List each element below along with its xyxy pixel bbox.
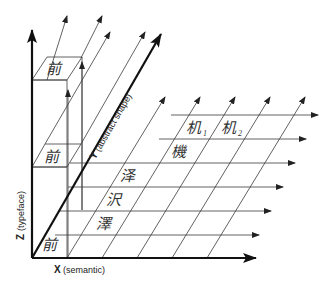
x-axis-letter: X [54,264,61,275]
z-axis-letter: Z [15,234,26,240]
glyph-origin: 前 [42,236,59,254]
glyph-mid-box: 前 [44,148,61,166]
glyph-top-box: 前 [46,60,63,78]
diagram-canvas: X (semantic) Z (typeface) Y (abstract sh… [0,0,335,285]
y-axis-label: (abstract shape) [93,92,134,153]
glyph-ji-2: 机 [221,119,237,137]
z-stack-lines [32,16,145,258]
glyph-ji-1-subscript: 1 [203,129,207,138]
glyph-ji-traditional: 機 [171,143,188,161]
glyph-ji-1: 机 [186,119,202,137]
z-axis-label-group: Z (typeface) [15,191,26,240]
z-axis-label: (typeface) [16,191,26,231]
x-axis-label: (semantic) [63,265,105,275]
glyph-ze-simplified: 泽 [120,167,136,185]
glyph-ze-traditional: 澤 [96,215,113,233]
glyph-ji-2-subscript: 2 [238,129,242,138]
glyph-ze-japanese: 沢 [106,191,123,209]
